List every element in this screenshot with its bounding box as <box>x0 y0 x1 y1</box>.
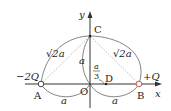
charge-a <box>38 81 44 87</box>
y-axis-label: y <box>78 9 85 20</box>
x-axis-label: x <box>155 88 161 99</box>
x-axis-arrow-icon <box>155 82 162 87</box>
length-oc: a <box>79 55 85 66</box>
charge-diagram: y x C A B O D −2Q +Q √2a √2a a a a a 3 <box>0 0 171 111</box>
label-c: C <box>94 24 102 35</box>
length-ao: a <box>61 95 67 106</box>
charge-a-label: −2Q <box>16 71 39 82</box>
length-ob: a <box>112 95 118 106</box>
length-bc: √2a <box>113 48 132 59</box>
label-a: A <box>33 90 42 101</box>
length-ac: √2a <box>46 48 65 59</box>
label-b: B <box>137 90 144 101</box>
arc-od <box>99 80 103 84</box>
length-od-denominator: 3 <box>94 72 99 81</box>
length-od-numerator: a <box>94 62 99 71</box>
label-o: O <box>80 86 88 97</box>
charge-b <box>136 81 142 87</box>
y-axis-arrow-icon <box>88 11 93 18</box>
charge-b-label: +Q <box>143 71 160 82</box>
point-c <box>89 35 92 38</box>
label-d: D <box>105 73 113 84</box>
